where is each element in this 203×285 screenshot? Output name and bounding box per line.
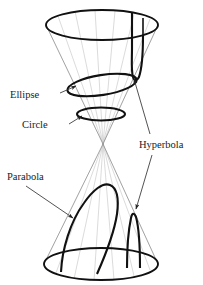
- generator-lines-upper: [46, 10, 158, 144]
- conic-sections-figure: Ellipse Circle Parabola Hyperbola: [0, 0, 203, 285]
- label-parabola: Parabola: [7, 171, 44, 182]
- leader-circle: [69, 116, 82, 124]
- leader-hyperbola-upper: [134, 79, 150, 134]
- hyperbola-lower-branch: [127, 214, 140, 268]
- label-hyperbola: Hyperbola: [139, 139, 184, 150]
- parabola-section: [61, 184, 118, 274]
- conic-diagram-svg: Ellipse Circle Parabola Hyperbola: [0, 0, 203, 285]
- ellipse-section: [66, 70, 138, 101]
- label-circle: Circle: [22, 119, 48, 130]
- leader-parabola: [26, 186, 73, 218]
- label-ellipse: Ellipse: [10, 89, 40, 100]
- leader-hyperbola-lower: [136, 155, 152, 209]
